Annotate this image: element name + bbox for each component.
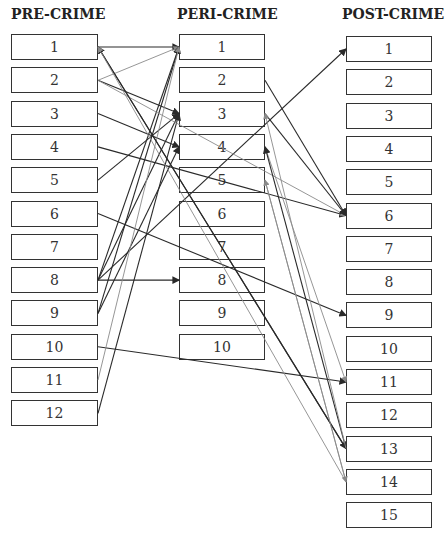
post-crime-box-12: 12 xyxy=(346,402,432,428)
post-crime-box-15: 15 xyxy=(346,502,432,528)
pre-crime-box-3: 3 xyxy=(11,101,98,127)
arrow-post-13-to-peri-4 xyxy=(265,147,346,449)
pre-crime-box-8: 8 xyxy=(11,267,98,293)
post-crime-title: POST-CRIME xyxy=(342,6,444,22)
peri-crime-title: PERI-CRIME xyxy=(177,6,278,22)
pre-crime-box-10: 10 xyxy=(11,334,98,360)
post-crime-box-7: 7 xyxy=(346,236,432,262)
peri-crime-box-7: 7 xyxy=(179,234,265,260)
pre-crime-box-4: 4 xyxy=(11,134,98,160)
arrow-pre-9-to-peri-1 xyxy=(98,47,179,313)
arrow-pre-8-to-peri-3 xyxy=(98,114,179,281)
arrow-pre-3-to-peri-4 xyxy=(98,114,179,147)
arrow-pre-11-to-peri-1 xyxy=(98,47,179,380)
arrow-pre-9-to-peri-4 xyxy=(98,147,179,314)
arrow-pre-12-to-peri-3 xyxy=(98,114,179,414)
post-crime-box-13: 13 xyxy=(346,436,432,462)
post-crime-box-14: 14 xyxy=(346,469,432,495)
post-crime-box-9: 9 xyxy=(346,302,432,328)
arrow-peri-2-to-post-6 xyxy=(265,80,346,215)
post-crime-box-2: 2 xyxy=(346,69,432,95)
arrow-post-14-to-peri-5 xyxy=(265,180,346,482)
arrow-post-13-to-peri-3 xyxy=(265,114,346,449)
peri-crime-box-6: 6 xyxy=(179,201,265,227)
arrow-pre-5-to-peri-3 xyxy=(98,114,179,181)
post-crime-box-3: 3 xyxy=(346,103,432,129)
post-crime-box-5: 5 xyxy=(346,169,432,195)
arrow-pre-2-to-peri-1 xyxy=(98,47,179,80)
pre-crime-box-5: 5 xyxy=(11,167,98,193)
post-crime-box-6: 6 xyxy=(346,203,432,229)
arrow-peri-5-to-post-14 xyxy=(265,180,346,482)
pre-crime-box-1: 1 xyxy=(11,34,98,60)
peri-crime-box-8: 8 xyxy=(179,267,265,293)
peri-crime-box-9: 9 xyxy=(179,300,265,326)
post-crime-box-8: 8 xyxy=(346,269,432,295)
pre-crime-box-9: 9 xyxy=(11,300,98,326)
peri-crime-box-3: 3 xyxy=(179,101,265,127)
peri-crime-box-10: 10 xyxy=(179,334,265,360)
pre-crime-title: PRE-CRIME xyxy=(11,6,105,22)
post-crime-box-10: 10 xyxy=(346,336,432,362)
peri-crime-box-1: 1 xyxy=(179,34,265,60)
arrow-pre-8-to-peri-1 xyxy=(98,47,179,280)
pre-crime-box-11: 11 xyxy=(11,367,98,393)
arrow-peri-3-to-post-6 xyxy=(265,114,346,216)
post-crime-box-1: 1 xyxy=(346,36,432,62)
post-crime-box-11: 11 xyxy=(346,369,432,395)
arrow-peri-4-to-post-11 xyxy=(265,147,346,382)
peri-crime-box-4: 4 xyxy=(179,134,265,160)
pre-crime-box-2: 2 xyxy=(11,67,98,93)
peri-crime-box-2: 2 xyxy=(179,67,265,93)
peri-crime-box-5: 5 xyxy=(179,167,265,193)
pre-crime-box-12: 12 xyxy=(11,400,98,426)
post-crime-box-4: 4 xyxy=(346,136,432,162)
pre-crime-box-7: 7 xyxy=(11,234,98,260)
pre-crime-box-6: 6 xyxy=(11,201,98,227)
arrow-pre-2-to-peri-3 xyxy=(98,80,179,113)
